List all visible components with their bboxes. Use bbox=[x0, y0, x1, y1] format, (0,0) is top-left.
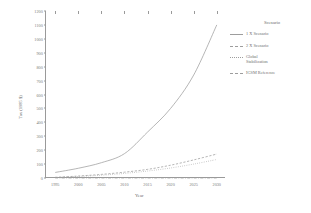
legend-item-label: 1 X Scenario bbox=[246, 31, 268, 36]
x-axis-tick-label: 2025 bbox=[190, 177, 198, 187]
x-axis-tick-mark bbox=[194, 11, 195, 14]
y-axis-tick-mark bbox=[44, 150, 47, 151]
y-axis-tick-mark bbox=[44, 80, 47, 81]
legend-item[interactable]: GlobalStabilization bbox=[230, 54, 308, 64]
y-axis-tick-mark bbox=[44, 136, 47, 137]
legend-item-label: IGSM Reference bbox=[246, 70, 275, 75]
y-axis-tick-mark bbox=[44, 122, 47, 123]
series-line bbox=[55, 25, 217, 173]
x-axis-tick-mark bbox=[217, 11, 218, 14]
y-axis-title: Tax (1985 $) bbox=[18, 95, 23, 119]
x-axis-tick-label: 2020 bbox=[166, 177, 174, 187]
line-solid-icon bbox=[230, 31, 243, 37]
legend-item-label: 2 X Scenario bbox=[246, 43, 268, 48]
x-axis-tick-mark bbox=[55, 11, 56, 14]
x-axis-title: Year bbox=[135, 193, 143, 198]
line-dash-dot-icon bbox=[230, 70, 243, 76]
legend-item[interactable]: 1 X Scenario bbox=[230, 31, 308, 37]
plot-area: 1200110010009008007006005004003002001000… bbox=[45, 11, 225, 178]
series-line bbox=[55, 154, 217, 177]
legend: Scenario 1 X Scenario2 X ScenarioGlobalS… bbox=[230, 20, 308, 81]
x-axis-tick-label: 2030 bbox=[213, 177, 221, 187]
y-axis-tick-mark bbox=[44, 38, 47, 39]
y-axis-tick-mark bbox=[44, 24, 47, 25]
y-axis-tick-mark bbox=[44, 11, 47, 12]
x-axis-tick-label: 2000 bbox=[74, 177, 82, 187]
series-line bbox=[55, 159, 217, 177]
y-axis-tick-mark bbox=[44, 66, 47, 67]
x-axis-tick-label: 2010 bbox=[120, 177, 128, 187]
y-axis-tick-mark bbox=[44, 94, 47, 95]
y-axis-tick-mark bbox=[44, 164, 47, 165]
x-axis-tick-mark bbox=[124, 11, 125, 14]
x-axis-tick-label: 2015 bbox=[143, 177, 151, 187]
legend-item[interactable]: IGSM Reference bbox=[230, 70, 308, 76]
x-axis-tick-mark bbox=[101, 11, 102, 14]
series-lines bbox=[46, 11, 226, 178]
chart-container: Tax (1985 $) Year 1200110010009008007006… bbox=[0, 0, 311, 213]
x-axis-tick-mark bbox=[171, 11, 172, 14]
line-dashed-icon bbox=[230, 43, 243, 49]
legend-title: Scenario bbox=[236, 20, 308, 25]
y-axis-tick-mark bbox=[44, 108, 47, 109]
line-dotted-icon bbox=[230, 54, 243, 60]
y-axis-tick-mark bbox=[44, 52, 47, 53]
x-axis-tick-label: 1995 bbox=[51, 177, 59, 187]
x-axis-tick-mark bbox=[78, 11, 79, 14]
x-axis-tick-mark bbox=[148, 11, 149, 14]
y-axis-tick-mark bbox=[44, 178, 47, 179]
legend-item[interactable]: 2 X Scenario bbox=[230, 43, 308, 49]
x-axis-tick-label: 2005 bbox=[97, 177, 105, 187]
legend-item-label: GlobalStabilization bbox=[246, 54, 268, 64]
